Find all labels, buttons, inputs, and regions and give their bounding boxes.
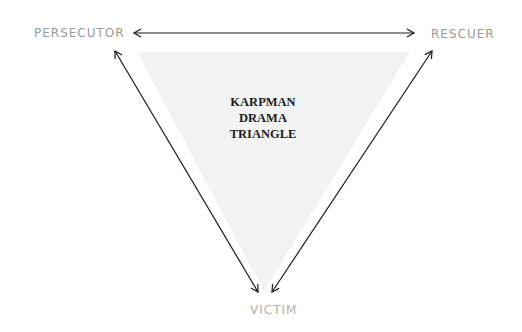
triangle-background [137, 52, 410, 292]
drama-triangle-diagram [0, 0, 522, 332]
title-line-2: DRAMA [200, 110, 326, 126]
title-line-1: KARPMAN [200, 94, 326, 110]
role-label-persecutor: PERSECUTOR [34, 26, 125, 40]
role-label-victim: VICTIM [250, 303, 297, 317]
diagram-title: KARPMAN DRAMA TRIANGLE [200, 94, 326, 142]
title-line-3: TRIANGLE [200, 126, 326, 142]
role-label-rescuer: RESCUER [431, 27, 495, 41]
